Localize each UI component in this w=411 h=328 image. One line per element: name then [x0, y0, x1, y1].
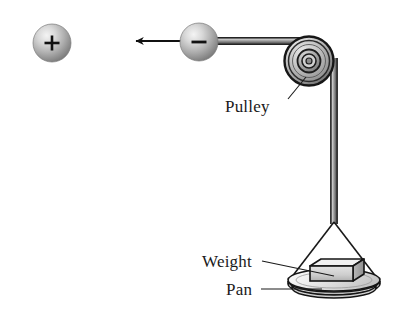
pulley	[285, 37, 334, 86]
rope-vertical	[331, 58, 338, 224]
positive-sphere	[33, 24, 71, 62]
pulley-label: Pulley	[225, 98, 270, 115]
negative-sphere	[180, 23, 218, 61]
figure-root: Pulley Weight Pan	[0, 0, 411, 328]
pulley-axle	[306, 58, 312, 64]
weight-label: Weight	[202, 253, 252, 270]
leader-lines	[261, 77, 334, 289]
weight-block	[310, 259, 364, 281]
pan-label: Pan	[226, 281, 252, 298]
weight-front-face	[310, 266, 353, 281]
figure-canvas	[0, 0, 411, 328]
